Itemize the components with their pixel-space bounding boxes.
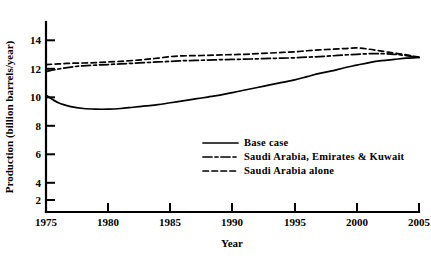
caption-partial <box>14 254 314 263</box>
x-axis-title: Year <box>221 237 243 249</box>
x-tick-label-1980: 1980 <box>97 216 120 228</box>
y-tick-label-14: 14 <box>30 34 42 46</box>
legend-swatches <box>203 143 238 171</box>
series-line-saudi-alone <box>46 48 419 65</box>
axes <box>46 22 419 212</box>
y-tick-label-4: 4 <box>36 177 42 189</box>
y-axis-title: Production (billion barrels/year) <box>3 40 16 193</box>
y-tick-label-12: 12 <box>30 63 42 75</box>
x-tick-label-2000: 2000 <box>346 216 369 228</box>
x-axis-ticks <box>46 203 419 212</box>
x-tick-label-2005: 2005 <box>408 216 431 228</box>
x-tick-label-1985: 1985 <box>159 216 182 228</box>
legend-label-saudi-alone: Saudi Arabia alone <box>244 165 334 176</box>
x-tick-label-1975: 1975 <box>35 216 58 228</box>
y-tick-label-6: 6 <box>36 148 42 160</box>
legend-label-base-case: Base case <box>244 137 289 148</box>
y-tick-label-8: 8 <box>36 120 42 132</box>
line-chart: 14 12 10 8 6 4 2 1975 1980 1985 1990 199… <box>0 0 431 263</box>
x-tick-label-1990: 1990 <box>221 216 244 228</box>
y-tick-label-2: 2 <box>36 194 42 206</box>
data-series-group <box>46 48 419 109</box>
x-axis-tick-labels: 1975 1980 1985 1990 1995 2000 2005 <box>35 216 431 228</box>
y-tick-label-10: 10 <box>30 91 42 103</box>
legend-label-saudi-emirates-kuwait: Saudi Arabia, Emirates & Kuwait <box>244 151 404 162</box>
x-tick-label-1995: 1995 <box>284 216 307 228</box>
figure-container: 14 12 10 8 6 4 2 1975 1980 1985 1990 199… <box>0 0 431 263</box>
y-axis-tick-labels: 14 12 10 8 6 4 2 <box>30 34 42 206</box>
